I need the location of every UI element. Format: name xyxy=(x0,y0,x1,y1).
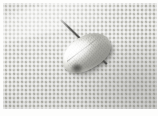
photo-plate xyxy=(3,3,157,109)
photo-frame xyxy=(0,0,158,116)
stem-attachment-shadow xyxy=(71,64,83,73)
